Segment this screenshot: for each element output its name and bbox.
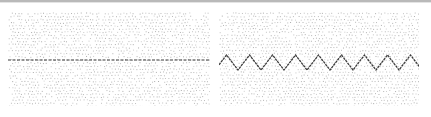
- top-border-shadow: [0, 2, 431, 3]
- stipple-panel-zigzag-line: [219, 12, 419, 106]
- stipple-panel-straight-line: [8, 12, 210, 106]
- stipple-texture-right: [219, 12, 419, 106]
- stipple-texture-left: [8, 12, 210, 106]
